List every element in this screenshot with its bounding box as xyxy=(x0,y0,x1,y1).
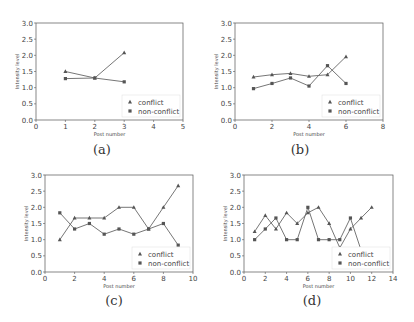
marker-triangle xyxy=(63,69,67,73)
marker-square xyxy=(270,82,273,85)
x-tick-label: 2 xyxy=(263,275,267,283)
x-axis-label: Post number xyxy=(103,283,136,289)
legend-label: conflict xyxy=(338,99,364,107)
caption-b: (b) xyxy=(280,142,320,157)
legend-label: non-conflict xyxy=(138,108,179,116)
x-tick-label: 8 xyxy=(161,275,165,283)
x-tick-label: 2 xyxy=(72,275,76,283)
legend-square-icon xyxy=(138,261,141,264)
y-axis-label: Intensity level xyxy=(213,54,220,89)
marker-square xyxy=(88,222,91,225)
y-tick-label: 0.5 xyxy=(22,100,33,108)
caption-c: (c) xyxy=(94,293,134,308)
y-axis-label: Intensity level xyxy=(222,206,229,241)
series-line-conflict xyxy=(254,57,347,77)
y-tick-label: 2.5 xyxy=(221,36,232,44)
x-tick-label: 10 xyxy=(346,275,355,283)
x-tick-label: 8 xyxy=(381,123,385,131)
y-tick-label: 1.5 xyxy=(31,220,42,228)
x-tick-label: 0 xyxy=(233,123,237,131)
y-tick-label: 0.0 xyxy=(31,269,42,277)
legend-label: non-conflict xyxy=(148,260,189,268)
x-tick-label: 4 xyxy=(307,123,312,131)
series-line-non-conflict xyxy=(254,66,347,89)
marker-square xyxy=(253,238,256,241)
series-line-conflict xyxy=(60,186,178,240)
x-tick-label: 10 xyxy=(189,275,198,283)
marker-square xyxy=(285,238,288,241)
y-tick-label: 1.0 xyxy=(22,84,33,92)
y-tick-label: 2.0 xyxy=(22,52,33,60)
legend-square-icon xyxy=(338,261,341,264)
x-tick-label: 8 xyxy=(327,275,331,283)
x-tick-label: 3 xyxy=(122,123,126,131)
y-tick-label: 3.0 xyxy=(31,172,42,180)
marker-square xyxy=(117,227,120,230)
marker-square xyxy=(132,233,135,236)
marker-triangle xyxy=(285,211,289,215)
subplot-b: 0.00.51.01.52.02.53.002468Post numberInt… xyxy=(213,20,385,138)
caption-a: (a) xyxy=(82,142,122,157)
marker-square xyxy=(317,238,320,241)
y-tick-label: 0.5 xyxy=(31,252,42,260)
series-line-non-conflict xyxy=(255,207,372,250)
x-tick-label: 1 xyxy=(63,123,67,131)
marker-square xyxy=(93,76,96,79)
x-tick-label: 12 xyxy=(367,275,376,283)
y-tick-label: 0.5 xyxy=(230,252,241,260)
x-tick-label: 5 xyxy=(181,123,185,131)
marker-square xyxy=(328,238,331,241)
y-tick-label: 3.0 xyxy=(221,20,232,28)
marker-square xyxy=(147,227,150,230)
y-tick-label: 2.0 xyxy=(31,204,42,212)
marker-square xyxy=(289,76,292,79)
legend-square-icon xyxy=(328,109,331,112)
series-line-conflict xyxy=(255,207,372,248)
marker-square xyxy=(296,238,299,241)
marker-square xyxy=(274,216,277,219)
x-tick-label: 4 xyxy=(102,275,107,283)
marker-square xyxy=(306,206,309,209)
y-tick-label: 0.5 xyxy=(221,100,232,108)
marker-square xyxy=(344,82,347,85)
legend-label: conflict xyxy=(148,251,174,259)
y-tick-label: 2.5 xyxy=(31,188,42,196)
marker-triangle xyxy=(344,54,348,58)
subplot-d: 0.00.51.01.52.02.53.002468101214Post num… xyxy=(222,172,398,290)
x-tick-label: 0 xyxy=(242,275,246,283)
marker-square xyxy=(326,64,329,67)
y-tick-label: 3.0 xyxy=(230,172,241,180)
y-tick-label: 1.0 xyxy=(221,84,232,92)
marker-square xyxy=(338,238,341,241)
marker-square xyxy=(64,77,67,80)
subplot-c: 0.00.51.01.52.02.53.00246810Post numberI… xyxy=(23,172,197,290)
subplot-a: 0.00.51.01.52.02.53.0012345Post numberIn… xyxy=(14,20,185,138)
legend-label: conflict xyxy=(348,251,374,259)
y-tick-label: 2.0 xyxy=(221,52,232,60)
x-tick-label: 6 xyxy=(132,275,137,283)
y-tick-label: 2.5 xyxy=(22,36,33,44)
marker-square xyxy=(73,227,76,230)
marker-square xyxy=(103,233,106,236)
figure: 0.00.51.01.52.02.53.0012345Post numberIn… xyxy=(0,0,414,322)
legend-label: conflict xyxy=(138,99,164,107)
marker-square xyxy=(123,80,126,83)
x-tick-label: 4 xyxy=(284,275,289,283)
caption-d: (d) xyxy=(292,293,332,308)
marker-square xyxy=(264,227,267,230)
marker-square xyxy=(349,216,352,219)
y-tick-label: 2.5 xyxy=(230,188,241,196)
x-tick-label: 0 xyxy=(43,275,47,283)
y-tick-label: 1.0 xyxy=(31,236,42,244)
marker-triangle xyxy=(263,213,267,217)
marker-square xyxy=(177,244,180,247)
y-tick-label: 2.0 xyxy=(230,204,241,212)
x-tick-label: 0 xyxy=(34,123,38,131)
x-axis-label: Post number xyxy=(293,131,326,137)
x-tick-label: 4 xyxy=(151,123,156,131)
y-tick-label: 0.0 xyxy=(22,117,33,125)
legend-label: non-conflict xyxy=(338,108,379,116)
y-tick-label: 1.0 xyxy=(230,236,241,244)
legend-square-icon xyxy=(128,109,131,112)
marker-triangle xyxy=(370,205,374,209)
